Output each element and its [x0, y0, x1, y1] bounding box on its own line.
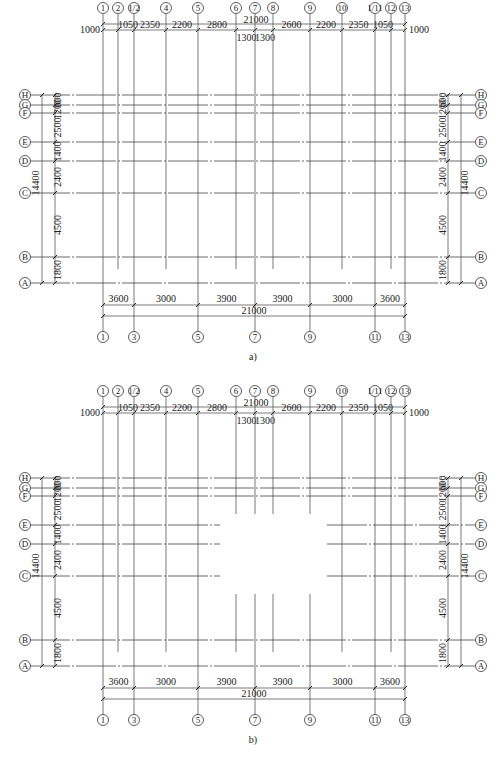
dimension-segment-row: 1800 — [52, 260, 63, 280]
axis-label-top: 9 — [308, 3, 313, 13]
dimension-segment-top: 2600 — [282, 19, 302, 30]
axis-label-row: E — [22, 137, 28, 147]
dimension-segment-bottom: 3000 — [333, 293, 353, 304]
axis-label-top: 13 — [401, 386, 411, 396]
dimension-segment-row: 4500 — [52, 598, 63, 618]
axis-label-top: 1 — [101, 3, 106, 13]
axis-label-row: F — [22, 491, 27, 501]
axis-label-row: A — [22, 661, 29, 671]
dimension-segment-bottom: 3600 — [109, 293, 129, 304]
dimension-segment-row: 1200 — [437, 482, 448, 502]
axis-label-row: B — [478, 635, 484, 645]
axis-label-row: F — [22, 108, 27, 118]
dimension-segment-top: 2350 — [349, 402, 369, 413]
axis-label-row: H — [478, 473, 485, 483]
dimension-center-segment: 1300 — [237, 32, 257, 43]
dimension-center-segment: 1300 — [237, 415, 257, 426]
axis-label-top: 10 — [338, 3, 348, 13]
axis-label-top: 4 — [164, 3, 169, 13]
dimension-segment-row: 2400 — [52, 550, 63, 570]
axis-label-row: B — [22, 252, 28, 262]
dimension-right-edge: 1000 — [409, 24, 429, 35]
axis-label-bottom: 3 — [132, 332, 137, 342]
figure-b: 121/2456789101/1112132100010001000105023… — [20, 386, 487, 747]
axis-label-row: E — [22, 520, 28, 530]
axis-label-top: 1/2 — [128, 386, 140, 396]
dimension-segment-row: 1400 — [437, 525, 448, 545]
dimension-segment-top: 2350 — [140, 402, 160, 413]
axis-label-row: C — [478, 571, 484, 581]
dimension-segment-row: 1800 — [437, 643, 448, 663]
axis-label-top: 12 — [387, 386, 396, 396]
dimension-segment-row: 4500 — [52, 215, 63, 235]
axis-label-top: 10 — [338, 386, 348, 396]
dimension-segment-bottom: 3000 — [156, 293, 176, 304]
dimension-center-segment: 1300 — [255, 415, 275, 426]
dimension-segment-top: 2350 — [349, 19, 369, 30]
dimension-total-rows: 14400 — [459, 171, 470, 196]
axis-label-top: 8 — [271, 3, 276, 13]
dimension-segment-top: 2800 — [207, 19, 227, 30]
axis-label-row: H — [478, 90, 485, 100]
axis-label-top: 6 — [234, 386, 239, 396]
axis-label-row: D — [22, 156, 29, 166]
axis-label-top: 9 — [308, 386, 313, 396]
axis-label-bottom: 1 — [101, 332, 106, 342]
dimension-segment-row: 2400 — [437, 167, 448, 187]
axis-label-row: A — [478, 661, 485, 671]
dimension-total-top: 21000 — [244, 14, 269, 25]
axis-label-top: 12 — [387, 3, 396, 13]
dimension-segment-row: 1200 — [437, 99, 448, 119]
axis-label-top: 2 — [116, 386, 121, 396]
axis-label-top: 5 — [196, 386, 201, 396]
dimension-center-segment: 1300 — [255, 32, 275, 43]
axis-label-top: 1 — [101, 386, 106, 396]
axis-label-top: 1/2 — [128, 3, 140, 13]
dimension-segment-row: 2500 — [437, 501, 448, 521]
axis-label-row: H — [22, 90, 29, 100]
axis-label-bottom: 7 — [253, 332, 258, 342]
axis-label-top: 7 — [253, 386, 258, 396]
dimension-segment-row: 1400 — [52, 525, 63, 545]
dimension-segment-row: 2500 — [52, 501, 63, 521]
figure-caption: a) — [249, 351, 257, 363]
axis-label-row: D — [22, 539, 29, 549]
dimension-segment-bottom: 3900 — [217, 293, 237, 304]
axis-label-bottom: 13 — [401, 332, 411, 342]
dimension-total-rows: 14400 — [30, 171, 41, 196]
axis-label-row: D — [478, 539, 485, 549]
axis-label-row: H — [22, 473, 29, 483]
axis-label-top: 1/11 — [367, 3, 383, 13]
dimension-segment-row: 1800 — [437, 260, 448, 280]
axis-label-row: A — [22, 278, 29, 288]
axis-label-row: E — [478, 520, 484, 530]
axis-label-bottom: 9 — [308, 715, 313, 725]
dimension-segment-top: 2200 — [316, 402, 336, 413]
dimension-left-edge: 1000 — [80, 24, 100, 35]
dimension-segment-top: 2800 — [207, 402, 227, 413]
dimension-segment-row: 2500 — [437, 118, 448, 138]
dimension-segment-row: 1400 — [437, 142, 448, 162]
axis-label-row: E — [478, 137, 484, 147]
dimension-segment-top: 2200 — [172, 402, 192, 413]
axis-label-bottom: 5 — [196, 332, 201, 342]
axis-label-top: 4 — [164, 386, 169, 396]
axis-label-bottom: 11 — [371, 332, 380, 342]
axis-label-row: D — [478, 156, 485, 166]
dimension-segment-bottom: 3900 — [273, 676, 293, 687]
axis-label-bottom: 1 — [101, 715, 106, 725]
axis-label-bottom: 5 — [196, 715, 201, 725]
axis-label-top: 7 — [253, 3, 258, 13]
dimension-left-edge: 1000 — [80, 407, 100, 418]
axis-label-row: C — [22, 188, 28, 198]
dimension-segment-row: 4500 — [437, 215, 448, 235]
dimension-segment-top: 2350 — [140, 19, 160, 30]
axis-label-top: 6 — [234, 3, 239, 13]
axis-label-top: 13 — [401, 3, 411, 13]
dimension-segment-bottom: 3900 — [217, 676, 237, 687]
axis-label-row: F — [478, 491, 483, 501]
dimension-segment-bottom: 3000 — [156, 676, 176, 687]
axis-label-bottom: 7 — [253, 715, 258, 725]
axis-label-row: C — [22, 571, 28, 581]
axis-label-bottom: 11 — [371, 715, 380, 725]
